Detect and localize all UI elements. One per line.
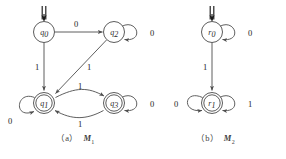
caption-figure-b: （b）M2 — [196, 131, 235, 145]
edge-label-q1-q3: 1 — [78, 81, 82, 91]
edge-label-r1-self-right: 1 — [248, 99, 252, 109]
caption-a-subscript: 1 — [91, 139, 94, 145]
caption-b-subscript: 2 — [232, 139, 235, 145]
start-arrow-r0 — [210, 6, 214, 21]
edge-q3-q1-lower — [55, 111, 104, 118]
edge-label-r0-self: 0 — [248, 28, 252, 38]
edge-label-r0-r1: 1 — [203, 62, 207, 72]
caption-b-name: M — [219, 133, 232, 143]
figure-canvas: q0 q2 q1 q3 0 1 0 1 0 1 1 0 — [0, 0, 286, 159]
edge-label-r1-self-left: 0 — [174, 99, 178, 109]
state-node-r1[interactable]: r1 — [202, 93, 223, 114]
state-node-q2[interactable]: q2 — [104, 22, 125, 43]
state-node-q1[interactable]: q1 — [34, 93, 55, 114]
caption-figure-a: （a）M1 — [56, 131, 94, 145]
edge-label-q0-q1: 1 — [35, 62, 39, 72]
edge-q1-self-loop — [19, 96, 34, 113]
caption-b-label: （b） — [196, 133, 219, 143]
automata-figure: q0 q2 q1 q3 0 1 0 1 0 1 1 0 — [0, 0, 286, 159]
caption-a-name: M — [78, 133, 91, 143]
edge-label-q2-self: 0 — [150, 28, 154, 38]
edge-r1-self-loop-left — [187, 96, 202, 111]
caption-a-label: （a） — [56, 133, 78, 143]
edge-label-q1-self: 0 — [8, 116, 12, 126]
edge-label-q2-q1: 1 — [87, 62, 91, 72]
start-arrow-q0 — [42, 6, 46, 21]
state-node-q3[interactable]: q3 — [104, 93, 125, 114]
state-node-q0[interactable]: q0 — [34, 22, 55, 43]
edge-label-q3-q1: 1 — [78, 119, 82, 129]
edge-label-q0-q2: 0 — [74, 19, 78, 29]
state-node-r0[interactable]: r0 — [202, 22, 223, 43]
edge-label-q3-self: 0 — [150, 99, 154, 109]
